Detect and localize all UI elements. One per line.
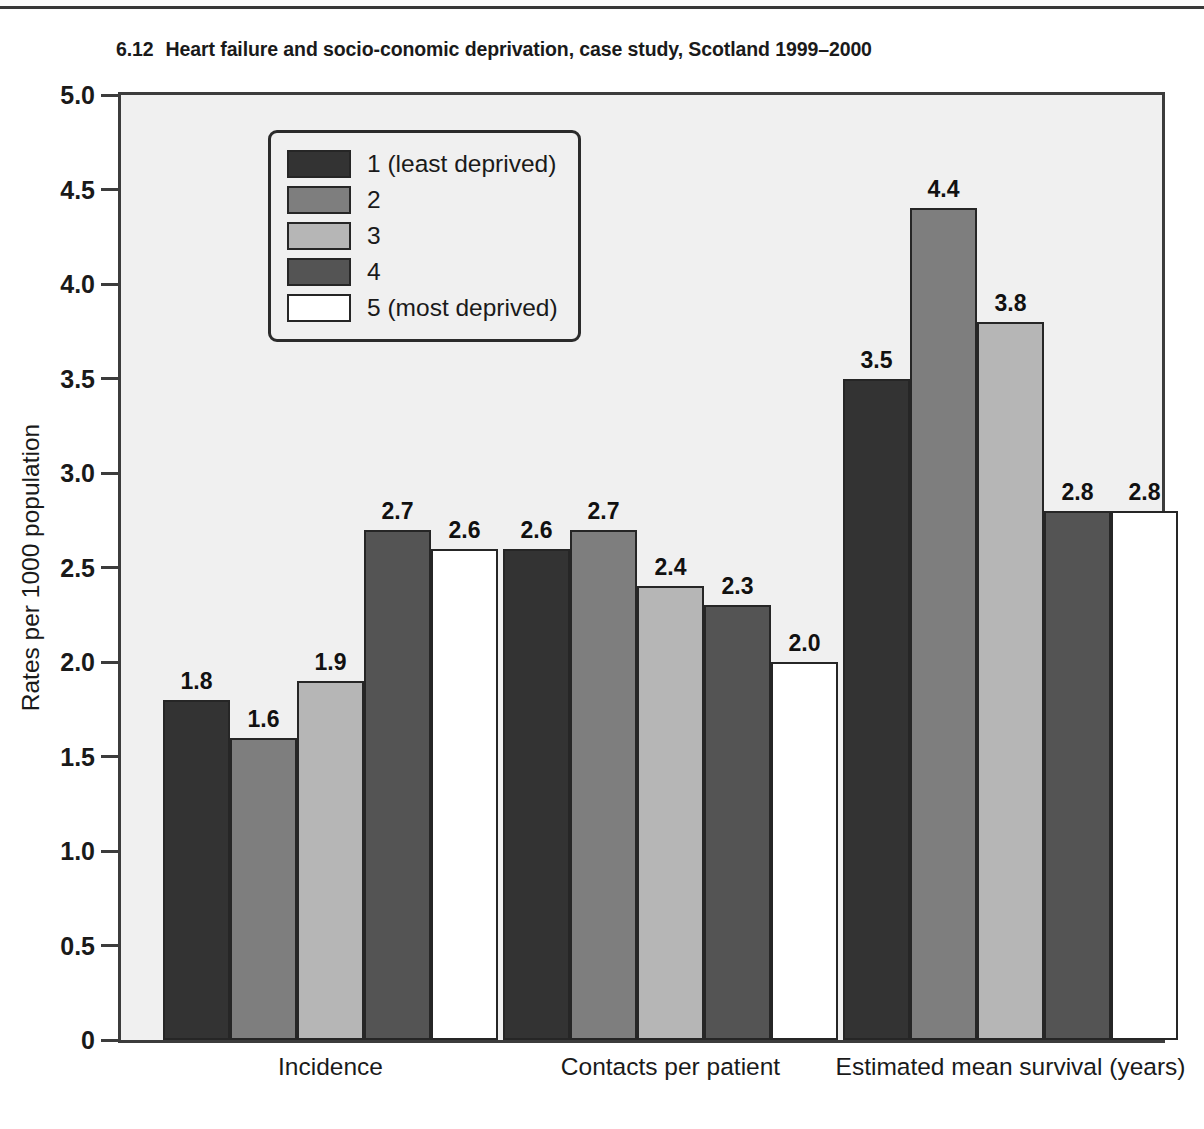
y-axis-tick-label: 0.5 [60,931,95,960]
bar-value-label: 2.6 [449,517,481,544]
page-top-rule [0,6,1204,9]
bar-value-label: 3.5 [861,347,893,374]
y-axis-tick-label: 0 [81,1026,95,1055]
y-axis-tick [101,944,121,947]
chart-title-text: Heart failure and socio-conomic deprivat… [166,38,872,60]
legend-item: 1 (least deprived) [287,146,558,182]
y-axis-tick [101,661,121,664]
bar: 3.8 [977,322,1044,1040]
bar-value-label: 2.8 [1129,479,1161,506]
chart-title: 6.12Heart failure and socio-conomic depr… [116,38,872,61]
legend-item: 2 [287,182,558,218]
legend-item: 3 [287,218,558,254]
bar-value-label: 2.8 [1062,479,1094,506]
legend-item-label: 3 [367,222,381,250]
bar: 1.6 [230,738,297,1040]
bar-value-label: 1.8 [181,668,213,695]
y-axis-tick [101,850,121,853]
bar: 2.8 [1111,511,1178,1040]
legend-swatch [287,258,351,286]
bar-value-label: 2.4 [655,554,687,581]
y-axis-tick [101,1039,121,1042]
bar-value-label: 2.7 [382,498,414,525]
y-axis-tick-label: 2.5 [60,553,95,582]
legend-swatch [287,186,351,214]
y-axis-tick [101,188,121,191]
bar: 2.7 [364,530,431,1040]
y-axis-tick-label: 4.5 [60,175,95,204]
x-axis-category-label: Contacts per patient [561,1053,780,1081]
bar: 2.6 [503,549,570,1040]
bar: 1.8 [163,700,230,1040]
y-axis-tick [101,472,121,475]
bar: 2.6 [431,549,498,1040]
bar: 4.4 [910,208,977,1040]
bar: 3.5 [843,379,910,1041]
bar: 2.7 [570,530,637,1040]
bar-value-label: 2.6 [521,517,553,544]
y-axis-tick-label: 1.0 [60,837,95,866]
y-axis-tick [101,94,121,97]
y-axis-tick-label: 2.0 [60,648,95,677]
y-axis-tick [101,283,121,286]
legend-item-label: 4 [367,258,381,286]
bar-value-label: 2.3 [722,573,754,600]
y-axis-tick [101,755,121,758]
bar-value-label: 2.7 [588,498,620,525]
y-axis-title: Rates per 1000 population [14,92,48,1043]
legend-swatch [287,222,351,250]
bar-value-label: 2.0 [789,630,821,657]
bar: 2.4 [637,586,704,1040]
y-axis-tick [101,566,121,569]
bar: 2.3 [704,605,771,1040]
plot-inner: 00.51.01.52.02.53.03.54.04.55.0 1.81.61.… [121,95,1162,1040]
plot-area: 00.51.01.52.02.53.03.54.04.55.0 1.81.61.… [118,92,1165,1043]
x-axis-category-label: Estimated mean survival (years) [836,1053,1186,1081]
y-axis-tick-label: 3.0 [60,459,95,488]
legend-item-label: 1 (least deprived) [367,150,556,178]
legend-item: 4 [287,254,558,290]
bar-value-label: 1.6 [248,706,280,733]
y-axis-tick-label: 5.0 [60,81,95,110]
legend-item: 5 (most deprived) [287,290,558,326]
bar: 2.8 [1044,511,1111,1040]
bar: 1.9 [297,681,364,1040]
x-axis-category-label: Incidence [278,1053,383,1081]
legend-swatch [287,150,351,178]
y-axis-tick-label: 4.0 [60,270,95,299]
bar-value-label: 4.4 [928,176,960,203]
legend-item-label: 2 [367,186,381,214]
y-axis-tick-label: 3.5 [60,364,95,393]
y-axis-tick [101,377,121,380]
bar-value-label: 1.9 [315,649,347,676]
y-axis-tick-label: 1.5 [60,742,95,771]
chart-legend: 1 (least deprived)2345 (most deprived) [268,130,581,342]
legend-swatch [287,294,351,322]
chart-title-number: 6.12 [116,38,154,60]
legend-item-label: 5 (most deprived) [367,294,558,322]
bar: 2.0 [771,662,838,1040]
bar-value-label: 3.8 [995,290,1027,317]
